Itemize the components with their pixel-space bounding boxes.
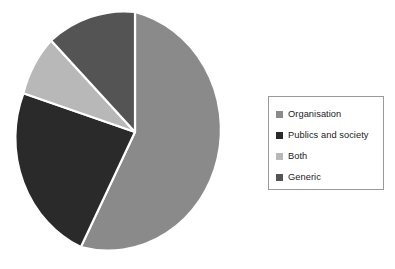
legend-item-organisation[interactable]: Organisation [269, 104, 383, 125]
legend-label-both: Both [288, 151, 307, 162]
legend-item-publics-and-society[interactable]: Publics and society [269, 125, 383, 146]
legend-swatch-generic [276, 174, 283, 181]
legend-swatch-publics-and-society [276, 132, 283, 139]
pie-svg [0, 0, 270, 269]
legend-label-organisation: Organisation [288, 109, 341, 120]
legend-label-publics-and-society: Publics and society [288, 130, 369, 141]
legend-swatch-organisation [276, 111, 283, 118]
legend-swatch-both [276, 153, 283, 160]
legend-label-generic: Generic [288, 172, 321, 183]
legend-item-both[interactable]: Both [269, 146, 383, 167]
legend-item-generic[interactable]: Generic [269, 167, 383, 188]
chart-legend: Organisation Publics and society Both Ge… [268, 96, 384, 190]
pie-chart: Organisation Publics and society Both Ge… [0, 0, 395, 269]
pie-slice-group [15, 11, 221, 250]
pie-graphic [0, 0, 270, 269]
